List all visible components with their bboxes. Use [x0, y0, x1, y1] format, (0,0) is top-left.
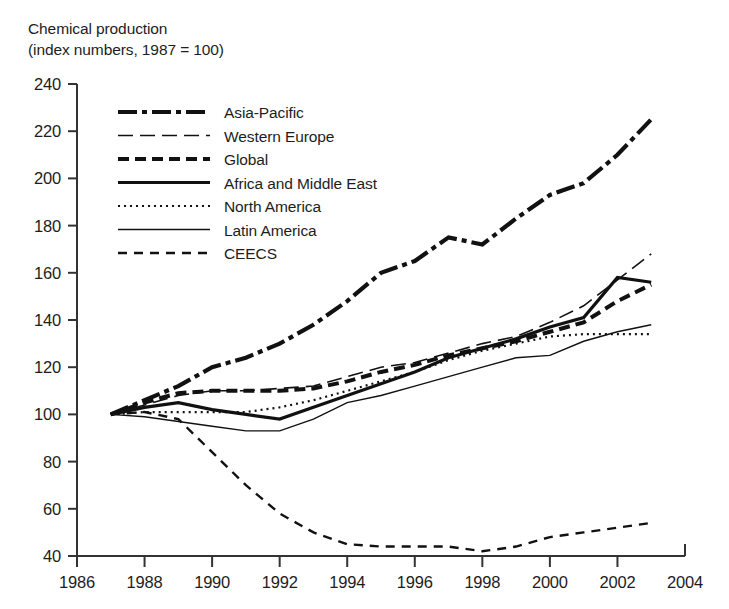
series-line-africa-and-middle-east [111, 278, 651, 420]
y-tick-label: 140 [34, 311, 61, 329]
y-tick-label: 200 [34, 169, 61, 187]
x-tick-label: 1988 [127, 573, 163, 591]
data-series [111, 119, 651, 551]
chart-title-line-2: (index numbers, 1987 = 100) [28, 39, 224, 60]
x-tick-label: 1990 [194, 573, 230, 591]
legend-label-north-america: North America [224, 198, 321, 215]
chart-figure: Chemical production (index numbers, 1987… [0, 0, 729, 609]
x-tick-label: 2000 [532, 573, 568, 591]
legend-label-western-europe: Western Europe [224, 128, 334, 145]
y-tick-label: 120 [34, 358, 61, 376]
axis-lines [77, 84, 685, 556]
legend-label-asia-pacific: Asia-Pacific [224, 104, 304, 121]
series-line-ceecs [111, 412, 651, 551]
legend-label-global: Global [224, 151, 268, 168]
axes: 2402202001801601401201008060401986198819… [34, 75, 703, 591]
y-tick-label: 240 [34, 75, 61, 93]
y-tick-label: 180 [34, 217, 61, 235]
x-tick-label: 1998 [464, 573, 500, 591]
y-tick-label: 100 [34, 405, 61, 423]
x-tick-label: 1994 [329, 573, 365, 591]
x-tick-label: 1996 [397, 573, 433, 591]
chart-title-line-1: Chemical production [28, 18, 224, 39]
x-tick-label: 2004 [667, 573, 703, 591]
y-tick-label: 60 [43, 500, 61, 518]
legend-label-ceecs: CEECS [224, 245, 277, 262]
y-tick-label: 160 [34, 264, 61, 282]
y-tick-label: 40 [43, 547, 61, 565]
y-tick-label: 220 [34, 122, 61, 140]
legend-label-africa-and-middle-east: Africa and Middle East [224, 175, 378, 192]
x-tick-label: 2002 [599, 573, 635, 591]
chart-legend: Asia-PacificWestern EuropeGlobalAfrica a… [118, 104, 378, 262]
legend-label-latin-america: Latin America [224, 222, 317, 239]
x-tick-label: 1992 [262, 573, 298, 591]
y-tick-label: 80 [43, 453, 61, 471]
line-chart-plot: 2402202001801601401201008060401986198819… [0, 0, 729, 609]
chart-title: Chemical production (index numbers, 1987… [28, 18, 224, 60]
x-tick-label: 1986 [59, 573, 95, 591]
series-line-latin-america [111, 325, 651, 431]
